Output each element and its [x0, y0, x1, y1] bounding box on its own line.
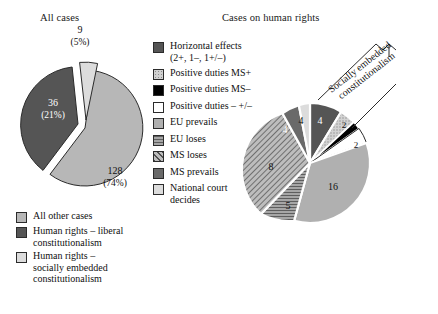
- swatch-eu-prevails: [153, 118, 164, 129]
- left-pie: 128 (74%) 36 (21%) 9 (5%): [21, 24, 143, 189]
- legend-label-positive-duties-ms-plus: Positive duties MS+: [170, 67, 251, 79]
- legend-label-hr-liberal: Human rights – liberal constitutionalism: [33, 225, 123, 248]
- swatch-positive-duties-ms-plus: [153, 69, 164, 80]
- figure-root: All cases Cases on human rights: [0, 0, 438, 314]
- legend-label-eu-prevails: EU prevails: [170, 116, 218, 128]
- legend-label-hr-socially-embedded: Human rights – socially embedded constit…: [33, 250, 108, 285]
- right-label-ms-prevails: 4: [283, 124, 288, 135]
- legend-item-positive-duties-plus-minus[interactable]: Positive duties – +/–: [153, 100, 252, 113]
- legend-left-pie: All other cases Human rights – liberal c…: [16, 210, 123, 287]
- swatch-hr-socially-embedded: [16, 252, 27, 263]
- swatch-ms-prevails: [153, 168, 164, 179]
- right-label-eu-loses: 5: [286, 200, 291, 211]
- legend-label-horizontal-effects: Horizontal effects (2+, 1–, 1+/–): [170, 40, 242, 63]
- swatch-positive-duties-plus-minus: [153, 102, 164, 113]
- legend-item-all-other-cases[interactable]: All other cases: [16, 210, 123, 223]
- legend-item-national-court-decides[interactable]: National court decides: [153, 182, 252, 205]
- left-label-36: 36: [48, 97, 58, 108]
- legend-item-hr-socially-embedded[interactable]: Human rights – socially embedded constit…: [16, 250, 123, 285]
- left-label-9-pct: (5%): [71, 37, 90, 48]
- swatch-eu-loses: [153, 135, 164, 146]
- legend-item-horizontal-effects[interactable]: Horizontal effects (2+, 1–, 1+/–): [153, 40, 252, 63]
- swatch-ms-loses: [153, 151, 164, 162]
- legend-label-positive-duties-plus-minus: Positive duties – +/–: [170, 100, 252, 112]
- legend-item-positive-duties-ms-plus[interactable]: Positive duties MS+: [153, 67, 252, 80]
- swatch-positive-duties-ms-minus: [153, 85, 164, 96]
- right-label-positive-duties-plus-minus: 2: [354, 140, 359, 150]
- right-label-positive-duties-ms-plus: 2: [342, 120, 347, 130]
- legend-item-eu-prevails[interactable]: EU prevails: [153, 116, 252, 129]
- swatch-national-court-decides: [153, 184, 164, 195]
- legend-item-positive-duties-ms-minus[interactable]: Positive duties MS–: [153, 83, 252, 96]
- legend-right-pie: Horizontal effects (2+, 1–, 1+/–) Positi…: [153, 40, 252, 209]
- legend-label-national-court-decides: National court decides: [170, 182, 227, 205]
- left-label-128: 128: [108, 165, 123, 176]
- right-label-horizontal-effects: 4: [318, 115, 323, 126]
- swatch-horizontal-effects: [153, 42, 164, 53]
- legend-item-ms-loses[interactable]: MS loses: [153, 149, 252, 162]
- swatch-all-other-cases: [16, 212, 27, 223]
- right-label-ms-loses: 8: [269, 161, 274, 172]
- legend-label-ms-prevails: MS prevails: [170, 166, 219, 178]
- legend-label-eu-loses: EU loses: [170, 133, 206, 145]
- left-label-128-pct: (74%): [103, 178, 127, 189]
- legend-label-ms-loses: MS loses: [170, 149, 207, 161]
- right-label-national-court-decides: 4: [299, 115, 304, 126]
- legend-label-positive-duties-ms-minus: Positive duties MS–: [170, 83, 251, 95]
- legend-item-ms-prevails[interactable]: MS prevails: [153, 166, 252, 179]
- swatch-hr-liberal: [16, 227, 27, 238]
- right-label-eu-prevails: 16: [328, 181, 338, 192]
- legend-item-eu-loses[interactable]: EU loses: [153, 133, 252, 146]
- left-label-36-pct: (21%): [41, 110, 65, 121]
- legend-label-all-other-cases: All other cases: [33, 210, 92, 222]
- left-label-9: 9: [78, 24, 83, 35]
- legend-item-hr-liberal[interactable]: Human rights – liberal constitutionalism: [16, 225, 123, 248]
